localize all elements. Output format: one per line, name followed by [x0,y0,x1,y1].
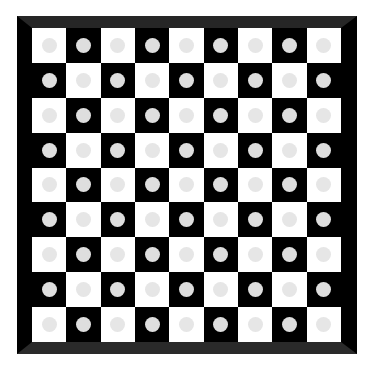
game-piece-circle-icon[interactable] [213,108,228,123]
game-piece-circle-icon[interactable] [42,247,57,262]
board-square-r2-c3[interactable] [101,63,135,98]
game-piece-circle-icon[interactable] [110,38,125,53]
board-square-r6-c1[interactable] [32,202,66,237]
game-piece-circle-icon[interactable] [179,73,194,88]
game-piece-circle-icon[interactable] [42,143,57,158]
board-square-r4-c3[interactable] [101,133,135,168]
game-piece-circle-icon[interactable] [316,73,331,88]
board-square-r9-c1[interactable] [32,307,66,342]
game-piece-circle-icon[interactable] [145,247,160,262]
game-piece-circle-icon[interactable] [76,38,91,53]
board-square-r6-c3[interactable] [101,202,135,237]
game-piece-circle-icon[interactable] [213,212,228,227]
board-square-r1-c5[interactable] [169,28,203,63]
board-square-r8-c3[interactable] [101,272,135,307]
board-square-r6-c6[interactable] [204,202,238,237]
board-square-r2-c9[interactable] [307,63,341,98]
game-piece-circle-icon[interactable] [316,247,331,262]
game-piece-circle-icon[interactable] [282,212,297,227]
board-square-r4-c5[interactable] [169,133,203,168]
board-square-r5-c5[interactable] [169,168,203,203]
board-square-r4-c6[interactable] [204,133,238,168]
game-piece-circle-icon[interactable] [145,73,160,88]
board-square-r4-c2[interactable] [66,133,100,168]
board-square-r1-c4[interactable] [135,28,169,63]
board-square-r3-c8[interactable] [272,98,306,133]
game-piece-circle-icon[interactable] [42,317,57,332]
game-piece-circle-icon[interactable] [213,73,228,88]
game-piece-circle-icon[interactable] [248,247,263,262]
board-square-r6-c9[interactable] [307,202,341,237]
board-square-r8-c6[interactable] [204,272,238,307]
game-piece-circle-icon[interactable] [316,317,331,332]
game-piece-circle-icon[interactable] [145,177,160,192]
game-piece-circle-icon[interactable] [42,73,57,88]
board-square-r3-c2[interactable] [66,98,100,133]
board-square-r9-c5[interactable] [169,307,203,342]
game-piece-circle-icon[interactable] [213,177,228,192]
board-square-r3-c3[interactable] [101,98,135,133]
board-square-r6-c2[interactable] [66,202,100,237]
board-square-r5-c9[interactable] [307,168,341,203]
board-square-r3-c9[interactable] [307,98,341,133]
board-square-r9-c8[interactable] [272,307,306,342]
game-piece-circle-icon[interactable] [110,177,125,192]
game-piece-circle-icon[interactable] [282,247,297,262]
game-piece-circle-icon[interactable] [145,108,160,123]
game-piece-circle-icon[interactable] [248,38,263,53]
game-piece-circle-icon[interactable] [110,212,125,227]
board-square-r2-c1[interactable] [32,63,66,98]
board-square-r7-c6[interactable] [204,237,238,272]
game-piece-circle-icon[interactable] [282,177,297,192]
board-square-r6-c8[interactable] [272,202,306,237]
game-piece-circle-icon[interactable] [42,212,57,227]
board-square-r9-c4[interactable] [135,307,169,342]
board-square-r6-c5[interactable] [169,202,203,237]
game-piece-circle-icon[interactable] [42,108,57,123]
game-piece-circle-icon[interactable] [42,177,57,192]
board-square-r4-c8[interactable] [272,133,306,168]
board-square-r9-c3[interactable] [101,307,135,342]
game-piece-circle-icon[interactable] [145,317,160,332]
board-square-r5-c2[interactable] [66,168,100,203]
game-piece-circle-icon[interactable] [179,282,194,297]
board-square-r8-c8[interactable] [272,272,306,307]
board-square-r3-c7[interactable] [238,98,272,133]
board-square-r7-c8[interactable] [272,237,306,272]
game-piece-circle-icon[interactable] [282,317,297,332]
game-piece-circle-icon[interactable] [316,143,331,158]
board-square-r3-c1[interactable] [32,98,66,133]
game-piece-circle-icon[interactable] [316,38,331,53]
board-square-r3-c6[interactable] [204,98,238,133]
board-square-r5-c6[interactable] [204,168,238,203]
game-piece-circle-icon[interactable] [145,143,160,158]
board-square-r3-c5[interactable] [169,98,203,133]
game-piece-circle-icon[interactable] [42,282,57,297]
board-square-r9-c6[interactable] [204,307,238,342]
game-piece-circle-icon[interactable] [76,108,91,123]
game-piece-circle-icon[interactable] [76,143,91,158]
game-piece-circle-icon[interactable] [145,38,160,53]
game-piece-circle-icon[interactable] [76,177,91,192]
board-square-r8-c4[interactable] [135,272,169,307]
game-piece-circle-icon[interactable] [179,177,194,192]
board-square-r1-c9[interactable] [307,28,341,63]
board-square-r4-c4[interactable] [135,133,169,168]
board-square-r5-c3[interactable] [101,168,135,203]
game-piece-circle-icon[interactable] [282,108,297,123]
game-piece-circle-icon[interactable] [316,212,331,227]
board-square-r9-c2[interactable] [66,307,100,342]
game-piece-circle-icon[interactable] [213,317,228,332]
game-piece-circle-icon[interactable] [179,247,194,262]
board-square-r2-c7[interactable] [238,63,272,98]
board-square-r7-c5[interactable] [169,237,203,272]
board-square-r5-c1[interactable] [32,168,66,203]
board-square-r1-c6[interactable] [204,28,238,63]
game-piece-circle-icon[interactable] [179,143,194,158]
game-piece-circle-icon[interactable] [42,38,57,53]
board-square-r7-c4[interactable] [135,237,169,272]
game-piece-circle-icon[interactable] [213,38,228,53]
board-square-r6-c4[interactable] [135,202,169,237]
board-square-r7-c3[interactable] [101,237,135,272]
game-piece-circle-icon[interactable] [316,108,331,123]
